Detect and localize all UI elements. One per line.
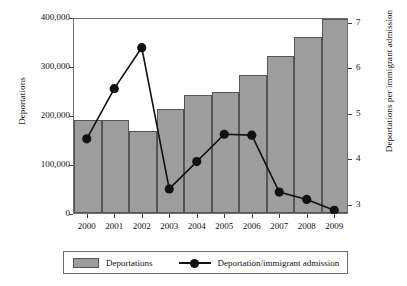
y-right-tick-mark-4 — [348, 23, 352, 24]
y-axis-right-title: Deportations per immigrant admission — [384, 1, 394, 161]
bar-2003 — [157, 109, 185, 213]
bar-2008 — [294, 37, 322, 213]
x-tick-label-2008: 2008 — [292, 221, 322, 231]
legend-bar-swatch-icon — [73, 258, 99, 268]
x-tick-label-2005: 2005 — [209, 221, 239, 231]
x-tick-mark-2003 — [169, 214, 170, 218]
y-right-tick-mark-1 — [348, 159, 352, 160]
y-right-tick-label-2: 5 — [356, 108, 361, 118]
x-tick-mark-2007 — [279, 214, 280, 218]
x-tick-mark-2006 — [252, 214, 253, 218]
y-left-tick-mark-0 — [69, 214, 73, 215]
legend-item-deportations: Deportations — [73, 258, 153, 268]
y-left-tick-label-3: 300,000 — [41, 61, 70, 71]
y-right-tick-label-0: 3 — [356, 199, 361, 209]
bar-2004 — [184, 95, 212, 213]
bar-2005 — [212, 92, 240, 213]
x-tick-label-2001: 2001 — [99, 221, 129, 231]
x-tick-mark-2002 — [142, 214, 143, 218]
x-tick-label-2007: 2007 — [264, 221, 294, 231]
x-tick-mark-2000 — [87, 214, 88, 218]
x-tick-label-2003: 2003 — [154, 221, 184, 231]
bar-2007 — [267, 56, 295, 213]
legend-line-swatch-icon — [179, 258, 211, 268]
y-right-tick-label-3: 6 — [356, 62, 361, 72]
bar-2002 — [129, 131, 157, 213]
bar-2001 — [102, 120, 130, 213]
x-tick-label-2009: 2009 — [319, 221, 349, 231]
y-right-tick-mark-3 — [348, 68, 352, 69]
bar-2000 — [74, 120, 102, 213]
x-tick-mark-2009 — [334, 214, 335, 218]
legend-label-deportations: Deportations — [106, 258, 153, 268]
x-tick-label-2004: 2004 — [182, 221, 212, 231]
y-right-tick-label-1: 4 — [356, 153, 361, 163]
y-right-tick-label-4: 7 — [356, 17, 361, 27]
chart-legend: Deportations Deportation/immigrant admis… — [63, 251, 348, 274]
legend-item-ratio: Deportation/immigrant admission — [179, 258, 340, 268]
y-left-tick-label-1: 100,000 — [41, 159, 70, 169]
y-right-tick-mark-2 — [348, 114, 352, 115]
x-tick-mark-2005 — [224, 214, 225, 218]
x-tick-mark-2001 — [114, 214, 115, 218]
x-tick-mark-2004 — [197, 214, 198, 218]
x-tick-label-2006: 2006 — [237, 221, 267, 231]
x-tick-label-2002: 2002 — [127, 221, 157, 231]
y-left-tick-label-2: 200,000 — [41, 110, 70, 120]
y-right-tick-mark-0 — [348, 205, 352, 206]
bar-2006 — [239, 75, 267, 213]
y-left-tick-label-0: 0 — [66, 208, 71, 218]
chart-figure: Deportations Deportations per immigrant … — [0, 0, 407, 286]
x-tick-label-2000: 2000 — [72, 221, 102, 231]
plot-area — [73, 18, 348, 214]
bar-2009 — [322, 19, 349, 213]
y-left-tick-label-4: 400,000 — [41, 12, 70, 22]
legend-label-ratio: Deportation/immigrant admission — [218, 258, 340, 268]
y-axis-left-title: Deportations — [17, 51, 27, 151]
x-tick-mark-2008 — [307, 214, 308, 218]
